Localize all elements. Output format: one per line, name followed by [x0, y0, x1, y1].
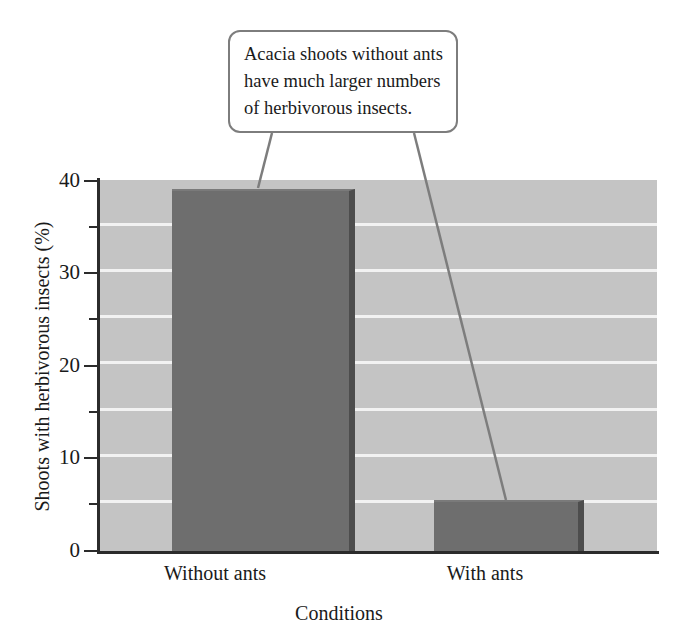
y-tick-5 — [89, 503, 100, 505]
y-tick-30 — [84, 272, 100, 274]
callout-text: Acacia shoots without ants have much lar… — [244, 41, 444, 121]
bar-chart-figure: 40 30 20 10 0 Shoots with herbivorous in… — [0, 0, 678, 640]
y-tick-35 — [89, 226, 100, 228]
callout-line-3: of herbivorous insects. — [244, 95, 444, 122]
y-tick-0 — [84, 550, 100, 552]
bar-with-ants[interactable] — [434, 500, 584, 551]
y-axis-title: Shoots with herbivorous insects (%) — [31, 182, 54, 552]
bar-without-ants[interactable] — [172, 189, 355, 551]
callout-line-1: Acacia shoots without ants — [244, 41, 444, 68]
y-tick-20 — [84, 365, 100, 367]
y-tick-15 — [89, 411, 100, 413]
y-tick-10 — [84, 457, 100, 459]
x-category-label-with-ants: With ants — [385, 562, 585, 585]
plot-area — [100, 180, 657, 551]
x-axis-line — [97, 551, 659, 554]
y-tick-40 — [84, 180, 100, 182]
x-category-label-without-ants: Without ants — [115, 562, 315, 585]
y-tick-25 — [89, 318, 100, 320]
x-axis-title: Conditions — [189, 602, 489, 625]
callout-box: Acacia shoots without ants have much lar… — [228, 30, 458, 133]
callout-line-2: have much larger numbers — [244, 68, 444, 95]
